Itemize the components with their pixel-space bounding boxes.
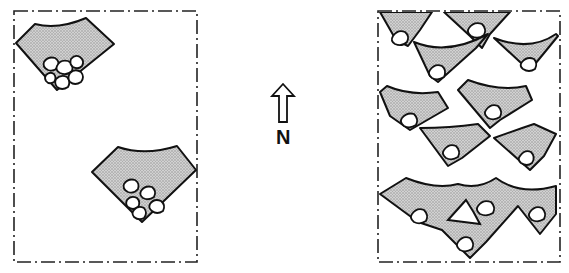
cobble-cluster xyxy=(44,56,84,89)
fan-unit xyxy=(16,18,114,90)
arrow-up-icon xyxy=(272,84,294,122)
fan-unit xyxy=(92,146,196,222)
panel-sparse xyxy=(14,11,197,262)
diagram-canvas: N xyxy=(0,0,569,273)
panel-dense xyxy=(378,11,560,262)
north-arrow: N xyxy=(272,84,294,148)
north-label: N xyxy=(276,126,290,148)
